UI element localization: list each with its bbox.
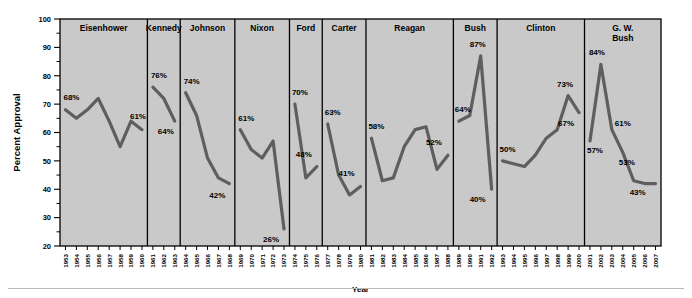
panel-title-johnson: Johnson	[190, 23, 225, 33]
data-label: 64%	[158, 127, 174, 136]
x-tick-label: 1986	[422, 253, 429, 267]
data-label: 70%	[292, 88, 308, 97]
x-tick-label: 1996	[532, 253, 539, 267]
panel-title-clinton: Clinton	[526, 23, 555, 33]
x-tick-label: 1958	[117, 253, 124, 267]
x-tick-label: 1956	[95, 253, 102, 267]
x-tick-label: 1980	[357, 253, 364, 267]
x-tick-label: 1961	[149, 253, 156, 267]
x-tick-label: 1995	[521, 253, 528, 267]
data-label: 73%	[557, 80, 573, 89]
x-tick-label: 1992	[488, 253, 495, 267]
chart-svg: EisenhowerKennedyJohnsonNixonFordCarterR…	[0, 0, 692, 298]
x-tick-label: 2004	[619, 253, 626, 267]
data-label: 57%	[587, 146, 603, 155]
data-label: 61%	[238, 114, 254, 123]
data-label: 76%	[151, 71, 167, 80]
x-tick-label: 1985	[412, 253, 419, 267]
x-tick-label: 1966	[204, 253, 211, 267]
data-label: 68%	[63, 93, 79, 102]
y-tick-label: 90	[43, 43, 51, 52]
data-label: 43%	[630, 188, 646, 197]
approval-rating-chart: EisenhowerKennedyJohnsonNixonFordCarterR…	[0, 0, 692, 298]
data-label: 84%	[589, 48, 605, 57]
x-tick-label: 1970	[248, 253, 255, 267]
x-tick-label: 1954	[73, 253, 80, 267]
x-tick-label: 1994	[510, 253, 517, 267]
x-tick-label: 1978	[335, 253, 342, 267]
x-tick-label: 2007	[652, 253, 659, 267]
x-tick-label: 1957	[106, 253, 113, 267]
x-tick-label: 1964	[182, 253, 189, 267]
x-tick-label: 1982	[379, 253, 386, 267]
y-tick-label: 30	[43, 213, 51, 222]
data-label: 53%	[619, 158, 635, 167]
data-label: 74%	[184, 77, 200, 86]
data-label: 63%	[325, 108, 341, 117]
y-tick-label: 50	[43, 157, 51, 166]
x-tick-label: 1984	[401, 253, 408, 267]
panel-title-reagan: Reagan	[394, 23, 425, 33]
x-tick-label: 1953	[62, 253, 69, 267]
x-tick-label: 1974	[291, 253, 298, 267]
x-tick-label: 2006	[641, 253, 648, 267]
data-label: 48%	[296, 150, 312, 159]
x-tick-label: 1962	[160, 253, 167, 267]
x-tick-label: 1990	[466, 253, 473, 267]
x-tick-label: 1971	[259, 253, 266, 267]
x-tick-label: 2005	[630, 253, 637, 267]
panel-title-carter: Carter	[332, 23, 358, 33]
x-tick-label: 1993	[499, 253, 506, 267]
x-tick-label: 1973	[280, 253, 287, 267]
data-label: 61%	[130, 112, 146, 121]
x-tick-label: 1979	[346, 253, 353, 267]
x-tick-label: 1997	[543, 253, 550, 267]
x-tick-label: 2003	[608, 253, 615, 267]
plot-background	[60, 19, 661, 246]
x-tick-label: 1988	[444, 253, 451, 267]
data-label: 42%	[209, 191, 225, 200]
x-tick-label: 1972	[269, 253, 276, 267]
y-tick-label: 70	[43, 100, 51, 109]
x-tick-label: 1999	[565, 253, 572, 267]
x-tick-label: 2000	[575, 253, 582, 267]
x-tick-label: 1967	[215, 253, 222, 267]
x-tick-label: 1960	[138, 253, 145, 267]
panel-title-nixon: Nixon	[250, 23, 274, 33]
data-label: 87%	[470, 40, 486, 49]
x-tick-label: 1955	[84, 253, 91, 267]
data-label: 58%	[368, 122, 384, 131]
data-label: 41%	[339, 169, 355, 178]
x-tick-label: 1968	[226, 253, 233, 267]
data-label: 26%	[263, 235, 279, 244]
y-tick-label: 60	[43, 128, 51, 137]
x-tick-label: 2001	[586, 253, 593, 267]
footer-divider	[8, 288, 684, 289]
data-label: 64%	[455, 105, 471, 114]
x-tick-label: 1975	[302, 253, 309, 267]
panel-title-bush: Bush	[465, 23, 486, 33]
y-axis-title: Percent Approval	[11, 93, 22, 171]
data-label: 50%	[500, 145, 516, 154]
y-tick-label: 40	[43, 185, 51, 194]
panel-title-gw-bush-2: Bush	[612, 33, 633, 43]
x-tick-label: 1963	[171, 253, 178, 267]
y-tick-label: 80	[43, 72, 51, 81]
x-tick-label: 1987	[433, 253, 440, 267]
panel-title-eisenhower: Eisenhower	[80, 23, 128, 33]
y-tick-label: 20	[43, 242, 51, 251]
x-tick-label: 1976	[313, 253, 320, 267]
panel-title-kennedy: Kennedy	[146, 23, 182, 33]
x-tick-label: 1969	[237, 253, 244, 267]
x-tick-label: 1991	[477, 253, 484, 267]
x-tick-label: 1959	[127, 253, 134, 267]
x-tick-label: 2002	[597, 253, 604, 267]
x-axis-title: Year	[352, 285, 369, 294]
x-tick-label: 1977	[324, 253, 331, 267]
data-label: 40%	[470, 195, 486, 204]
x-tick-label: 1989	[455, 253, 462, 267]
data-label: 61%	[615, 119, 631, 128]
x-tick-label: 1983	[390, 253, 397, 267]
panel-title-ford: Ford	[296, 23, 315, 33]
data-label: 67%	[558, 119, 574, 128]
